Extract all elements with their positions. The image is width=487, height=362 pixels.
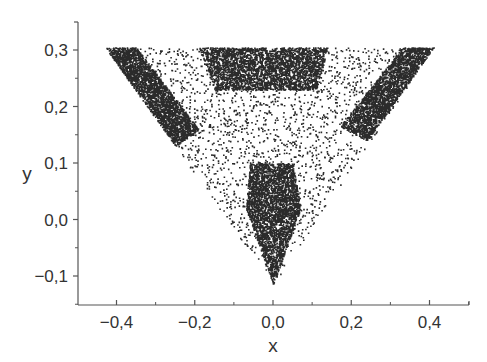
x-tick-label: 0,2	[339, 313, 363, 332]
scatter-chart: −0,4−0,20,00,20,4−0,10,00,10,20,3 x y	[0, 0, 487, 362]
scatter-points	[106, 47, 435, 285]
y-tick-label: 0,1	[44, 154, 68, 173]
y-axis-label: y	[22, 163, 32, 184]
scatter-points-path	[106, 47, 435, 285]
x-tick-label: −0,4	[100, 313, 134, 332]
y-tick-label: 0,3	[44, 41, 68, 60]
y-tick-label: 0,0	[44, 211, 68, 230]
y-tick-label: −0,1	[34, 267, 68, 286]
y-tick-label: 0,2	[44, 98, 68, 117]
x-tick-label: −0,2	[178, 313, 212, 332]
x-tick-label: 0,4	[418, 313, 442, 332]
x-axis-label: x	[268, 335, 278, 356]
x-tick-label: 0,0	[261, 313, 285, 332]
